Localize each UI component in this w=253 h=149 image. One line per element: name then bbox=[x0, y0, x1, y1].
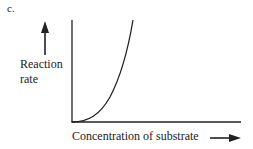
rate-curve bbox=[72, 20, 133, 122]
y-axis-label-line1: Reaction bbox=[20, 57, 63, 72]
x-axis-label: Concentration of substrate bbox=[72, 129, 199, 144]
x-direction-arrow-icon bbox=[210, 134, 241, 142]
y-direction-arrow-icon bbox=[41, 21, 49, 55]
y-axis-label-line2: rate bbox=[20, 72, 38, 87]
